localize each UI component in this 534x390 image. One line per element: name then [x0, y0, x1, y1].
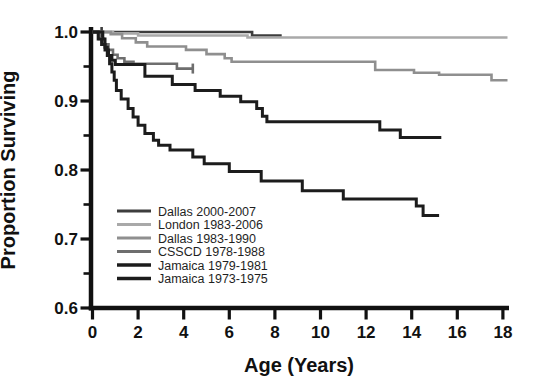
x-tick-label: 12	[357, 323, 376, 342]
legend-label-jamaica-1979-1981: Jamaica 1979-1981	[158, 259, 268, 273]
curve-jamaica-1973-1975	[93, 32, 440, 216]
legend-item-dallas-1983-1990: Dallas 1983-1990	[117, 232, 256, 246]
legend-item-jamaica-1973-1975: Jamaica 1973-1975	[117, 272, 268, 286]
legend-item-csscd-1978-1988: CSSCD 1978-1988	[117, 245, 265, 259]
survival-curves	[93, 27, 508, 216]
legend: Dallas 2000-2007London 1983-2006Dallas 1…	[117, 205, 268, 287]
legend-item-jamaica-1979-1981: Jamaica 1979-1981	[117, 259, 268, 273]
legend-label-dallas-1983-1990: Dallas 1983-1990	[158, 232, 256, 246]
y-tick-label: 0.8	[54, 161, 78, 180]
x-axis-title: Age (Years)	[244, 354, 354, 376]
legend-item-london-1983-2006: London 1983-2006	[117, 218, 263, 232]
x-tick-label: 6	[225, 323, 234, 342]
x-tick-label: 8	[270, 323, 279, 342]
legend-label-csscd-1978-1988: CSSCD 1978-1988	[158, 245, 265, 259]
x-tick-label: 16	[448, 323, 467, 342]
x-tick-label: 4	[179, 323, 189, 342]
legend-label-dallas-2000-2007: Dallas 2000-2007	[158, 205, 256, 219]
legend-label-london-1983-2006: London 1983-2006	[158, 218, 263, 232]
x-tick-label: 14	[402, 323, 421, 342]
y-tick-label: 0.7	[54, 230, 78, 249]
y-axis-title: Proportion Surviving	[0, 71, 19, 270]
x-tick-label: 18	[493, 323, 512, 342]
y-tick-label: 1.0	[54, 23, 78, 42]
curve-jamaica-1979-1981	[93, 32, 442, 138]
survival-figure: Proportion Surviving Age (Years) 0246810…	[0, 0, 534, 390]
y-tick-label: 0.6	[54, 299, 78, 318]
legend-label-jamaica-1973-1975: Jamaica 1973-1975	[158, 272, 268, 286]
survival-chart: Proportion Surviving Age (Years) 0246810…	[0, 0, 534, 390]
legend-item-dallas-2000-2007: Dallas 2000-2007	[117, 205, 256, 219]
x-tick-label: 0	[88, 323, 97, 342]
x-tick-label: 2	[133, 323, 142, 342]
x-tick-label: 10	[311, 323, 330, 342]
curve-dallas-1983-1990	[93, 32, 508, 80]
y-tick-label: 0.9	[54, 92, 78, 111]
